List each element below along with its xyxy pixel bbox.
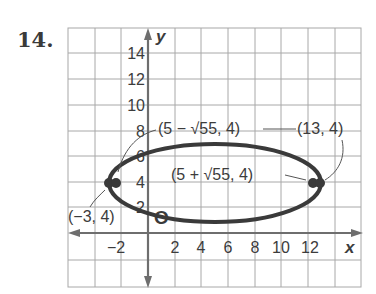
- svg-text:14: 14: [127, 45, 145, 62]
- vertex-right-point: [315, 178, 325, 188]
- x-axis-left-arrow-icon: [68, 229, 80, 237]
- svg-text:12: 12: [301, 239, 319, 256]
- svg-text:6: 6: [224, 239, 233, 256]
- svg-text:10: 10: [272, 239, 290, 256]
- focus-left-label: (5 − √55, 4): [158, 120, 240, 137]
- focus-right-label: (5 + √55, 4): [171, 166, 253, 183]
- y-axis-label: y: [155, 27, 167, 46]
- origin-marker-label: O: [154, 207, 169, 228]
- x-axis-label: x: [344, 238, 356, 257]
- vertex-right-leader: [325, 140, 343, 180]
- svg-text:8: 8: [136, 123, 145, 140]
- x-tick-labels: −2 2 4 6 8 10 12: [107, 239, 319, 256]
- svg-text:4: 4: [197, 239, 206, 256]
- vertex-left-label: (−3, 4): [68, 208, 115, 225]
- svg-text:−2: −2: [107, 239, 125, 256]
- svg-text:10: 10: [127, 97, 145, 114]
- svg-text:4: 4: [136, 174, 145, 191]
- focus-right-leader: [285, 175, 306, 180]
- y-axis-up-arrow-icon: [144, 28, 152, 40]
- svg-text:12: 12: [127, 71, 145, 88]
- vertex-left-leader: [90, 190, 105, 207]
- svg-text:2: 2: [171, 239, 180, 256]
- graph: y x 2 4 6 8 10 12 14 −2 2 4 6 8 10 12 O …: [0, 0, 376, 294]
- svg-text:8: 8: [251, 239, 260, 256]
- focus-left-point: [111, 178, 121, 188]
- vertex-right-label: (13, 4): [297, 120, 343, 137]
- y-axis-down-arrow-icon: [144, 276, 152, 288]
